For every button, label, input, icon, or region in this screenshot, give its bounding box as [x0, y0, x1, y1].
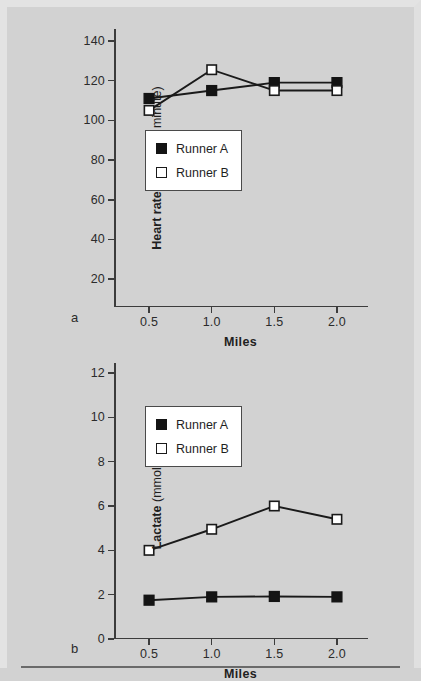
filled-square-icon [156, 143, 167, 154]
x-tick-b-1 [211, 639, 213, 645]
filled-square-icon [156, 419, 167, 430]
open-square-icon [156, 443, 167, 454]
series-line-a-1 [149, 70, 337, 111]
x-tick-label-a-2: 1.5 [265, 315, 283, 329]
panel-letter-b: b [71, 641, 78, 656]
legend-item-runner-b: Runner B [156, 439, 229, 458]
y-tick-label-a-1: 120 [84, 74, 105, 88]
legend-label-runner-a: Runner A [176, 418, 228, 432]
y-tick-label-a-2: 100 [84, 113, 105, 127]
x-tick-label-b-0: 0.5 [140, 647, 158, 661]
y-axis-title-strong-a: Heart rate [150, 191, 164, 249]
x-tick-label-b-1: 1.0 [203, 647, 221, 661]
data-point-b-0-1 [207, 592, 217, 602]
y-tick-label-a-3: 80 [91, 153, 105, 167]
legend-item-runner-a: Runner A [156, 415, 229, 434]
data-point-a-0-1 [207, 86, 217, 96]
y-tick-label-a-0: 140 [84, 34, 105, 48]
y-tick-label-a-5: 40 [91, 232, 105, 246]
data-point-b-1-2 [270, 501, 279, 510]
legend-b: Runner A Runner B [145, 406, 242, 467]
data-point-b-0-2 [269, 592, 279, 602]
x-tick-label-a-1: 1.0 [203, 315, 221, 329]
panel-a: 14012010080604020 0.51.01.52.0 Heart rat… [7, 7, 421, 341]
data-point-a-1-1 [207, 65, 216, 74]
panel-letter-a: a [71, 310, 78, 325]
legend-item-runner-b: Runner B [156, 163, 229, 182]
x-tick-b-0 [148, 639, 150, 645]
data-point-b-1-1 [207, 525, 216, 534]
y-tick-label-a-6: 20 [91, 272, 105, 286]
x-tick-label-b-2: 1.5 [265, 647, 283, 661]
y-tick-label-b-5: 2 [98, 588, 105, 602]
y-tick-label-a-4: 60 [91, 193, 105, 207]
legend-label-runner-a: Runner A [176, 142, 228, 156]
data-point-a-1-2 [270, 86, 279, 95]
plot-area-a: 14012010080604020 0.51.01.52.0 Heart rat… [114, 29, 367, 307]
y-tick-label-b-2: 8 [98, 455, 105, 469]
x-tick-a-3 [336, 307, 338, 313]
x-tick-b-2 [274, 639, 276, 645]
panel-b: 121086420 0.51.01.52.0 Lactate (mmol/L) … [7, 341, 421, 675]
x-tick-a-1 [211, 307, 213, 313]
y-tick-label-b-1: 10 [91, 410, 105, 424]
legend-a: Runner A Runner B [145, 130, 242, 191]
bottom-divider [21, 666, 400, 668]
y-tick-label-b-4: 4 [98, 543, 105, 557]
x-tick-a-0 [148, 307, 150, 313]
data-point-a-1-3 [332, 86, 341, 95]
data-point-b-0-3 [332, 592, 342, 602]
x-tick-b-3 [336, 639, 338, 645]
plot-area-b: 121086420 0.51.01.52.0 Lactate (mmol/L) … [114, 363, 367, 639]
series-line-b-1 [149, 506, 337, 550]
y-axis-title-strong-b: Lactate [150, 506, 164, 550]
x-tick-label-b-3: 2.0 [328, 647, 346, 661]
legend-item-runner-a: Runner A [156, 139, 229, 158]
x-tick-label-a-0: 0.5 [140, 315, 158, 329]
legend-label-runner-b: Runner B [176, 166, 229, 180]
y-tick-label-b-0: 12 [91, 366, 105, 380]
legend-label-runner-b: Runner B [176, 442, 229, 456]
x-tick-label-a-3: 2.0 [328, 315, 346, 329]
y-tick-label-b-3: 6 [98, 499, 105, 513]
x-tick-a-2 [274, 307, 276, 313]
open-square-icon [156, 167, 167, 178]
y-tick-label-b-6: 0 [98, 632, 105, 646]
x-axis-title-b: Miles [224, 667, 257, 681]
data-point-b-1-3 [332, 515, 341, 524]
series-line-b-0 [149, 596, 337, 600]
